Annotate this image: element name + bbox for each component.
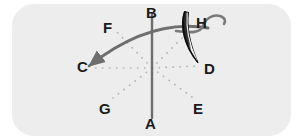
label-point-e: E — [193, 101, 203, 116]
diagram-figure: F B H C D G E A — [0, 0, 303, 140]
label-point-c: C — [77, 59, 88, 74]
label-point-d: D — [204, 61, 215, 76]
label-point-g: G — [99, 101, 111, 116]
label-point-a: A — [145, 116, 156, 131]
label-point-b: B — [146, 5, 157, 20]
label-point-h: H — [196, 15, 207, 30]
label-point-f: F — [103, 20, 112, 35]
